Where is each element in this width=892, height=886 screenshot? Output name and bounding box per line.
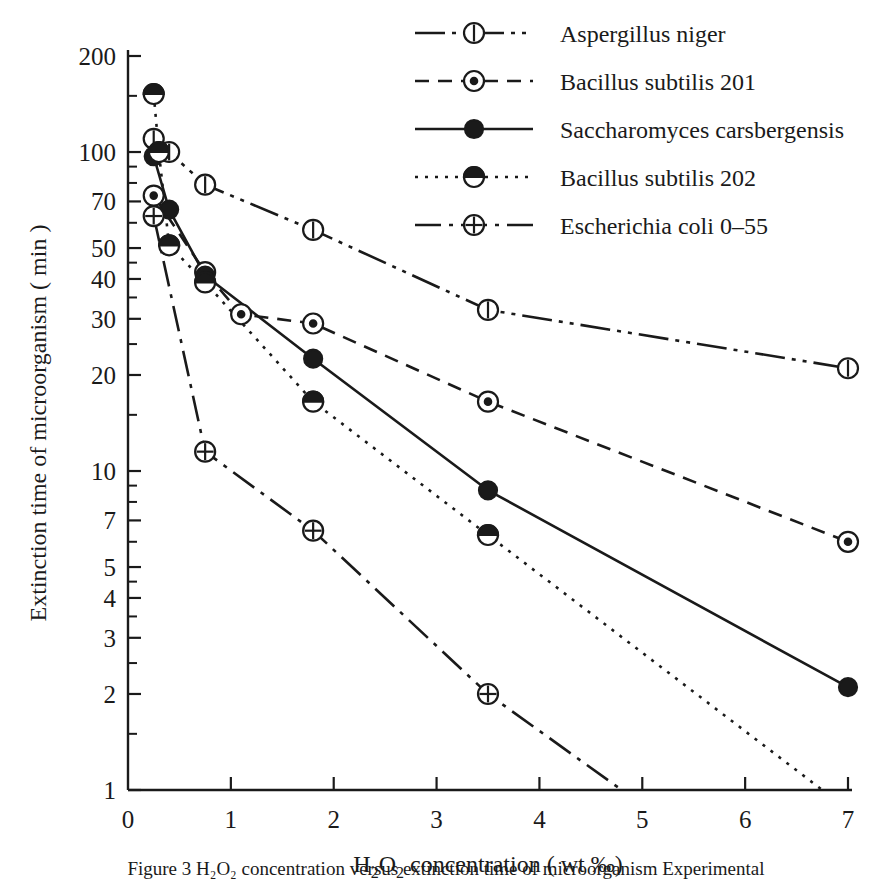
x-tick-label: 6 (739, 806, 752, 833)
x-tick-label: 5 (636, 806, 649, 833)
x-tick-label: 7 (842, 806, 855, 833)
figure-container: 20010070504030201075432101234567Extincti… (0, 0, 892, 886)
legend-marker-4 (464, 215, 484, 235)
legend-label-3: Bacillus subtilis 202 (560, 165, 756, 191)
legend-label-1: Bacillus subtilis 201 (560, 69, 756, 95)
data-point-4-2 (303, 521, 323, 541)
data-point-2-3 (304, 350, 322, 368)
data-point-3-0 (144, 84, 164, 104)
data-point-3-3 (195, 272, 215, 292)
data-point-1-2 (231, 304, 251, 324)
data-point-3-4 (303, 392, 323, 412)
legend-label-2: Saccharomyces carsbergensis (560, 117, 844, 143)
data-point-3-5 (478, 525, 498, 545)
data-point-1-4 (478, 392, 498, 412)
y-tick-label: 200 (79, 43, 117, 70)
y-tick-label: 5 (104, 554, 117, 581)
y-tick-label: 40 (91, 266, 116, 293)
chart-canvas: 20010070504030201075432101234567Extincti… (0, 0, 892, 886)
data-point-4-3 (478, 684, 498, 704)
figure-caption: Figure 3 H₂O₂ concentration versus extin… (0, 862, 892, 880)
x-tick-label: 0 (122, 806, 135, 833)
y-tick-label: 2 (104, 681, 117, 708)
y-axis-title: Extinction time of microorganism ( min ) (25, 225, 51, 622)
data-point-2-5 (839, 678, 857, 696)
y-tick-label: 20 (91, 362, 116, 389)
data-point-0-3 (303, 220, 323, 240)
legend-label-0: Aspergillus niger (560, 21, 726, 47)
x-tick-label: 3 (430, 806, 443, 833)
data-point-1-0 (144, 186, 164, 206)
y-tick-label: 70 (91, 188, 116, 215)
data-point-0-5 (838, 358, 858, 378)
y-tick-label: 4 (104, 585, 117, 612)
legend-marker-0 (464, 23, 484, 43)
series-line-1 (154, 196, 848, 542)
y-tick-label: 1 (104, 777, 117, 804)
figure-caption-strip: Figure 3 H₂O₂ concentration versus extin… (0, 862, 892, 886)
y-tick-label: 30 (91, 306, 116, 333)
legend-label-4: Escherichia coli 0–55 (560, 213, 768, 239)
data-point-4-1 (195, 442, 215, 462)
y-tick-label: 100 (79, 139, 117, 166)
data-point-4-0 (144, 206, 164, 226)
data-point-1-5 (838, 532, 858, 552)
y-tick-label: 3 (104, 625, 117, 652)
y-tick-label: 10 (91, 458, 116, 485)
x-tick-label: 2 (327, 806, 340, 833)
y-tick-label: 7 (104, 507, 117, 534)
y-tick-label: 50 (91, 235, 116, 262)
data-point-3-2 (159, 235, 179, 255)
legend-marker-3 (464, 167, 484, 187)
data-point-0-2 (195, 175, 215, 195)
legend-marker-2 (465, 120, 483, 138)
data-point-1-3 (303, 314, 323, 334)
data-point-2-4 (479, 481, 497, 499)
data-point-0-4 (478, 300, 498, 320)
x-tick-label: 1 (225, 806, 238, 833)
x-tick-label: 4 (533, 806, 546, 833)
data-point-3-1 (149, 142, 169, 162)
legend-marker-1 (464, 71, 484, 91)
